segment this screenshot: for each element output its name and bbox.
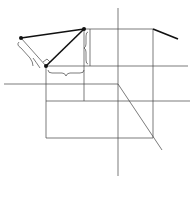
side-true-length-line	[153, 29, 178, 39]
point-b-prime	[82, 27, 86, 31]
front-delta-y-brace	[18, 42, 40, 68]
projection-diagram	[0, 0, 192, 199]
point-A0-front	[19, 36, 23, 40]
front-delta-x-brace	[48, 70, 84, 76]
front-right-angle-mark	[43, 59, 50, 62]
point-a-prime	[44, 64, 48, 68]
diagonal-45-line	[118, 84, 162, 150]
front-delta-z-brace	[84, 32, 88, 64]
front-projection-line	[46, 29, 84, 66]
front-true-length-line	[21, 29, 84, 38]
